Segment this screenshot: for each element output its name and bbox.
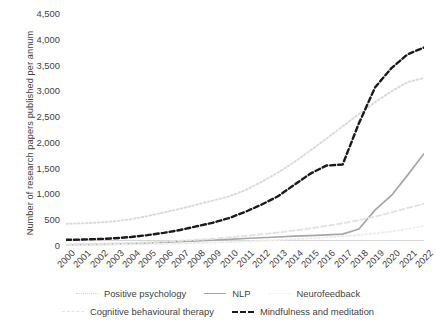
legend-label: Mindfulness and meditation — [260, 306, 374, 317]
y-axis-tick: 4,000 — [14, 35, 60, 44]
legend-label: Positive psychology — [104, 288, 186, 299]
series-line — [66, 154, 424, 245]
series-line — [66, 48, 424, 240]
y-axis-tick: 1,500 — [14, 164, 60, 173]
legend-swatch-icon — [62, 311, 84, 312]
y-axis-tick: 0 — [14, 241, 60, 250]
legend-label: Cognitive behavioural therapy — [90, 306, 214, 317]
legend-row-2: Cognitive behavioural therapyMindfulness… — [0, 306, 436, 317]
legend-swatch-icon — [76, 293, 98, 294]
y-axis-tick: 4,500 — [14, 9, 60, 18]
y-axis-tick: 2,000 — [14, 138, 60, 147]
legend-item[interactable]: Neurofeedback — [269, 288, 361, 299]
legend-label: Neurofeedback — [297, 288, 361, 299]
legend-swatch-icon — [232, 311, 254, 313]
y-axis-tick-labels: 05001,0001,5002,0002,5003,0003,5004,0004… — [14, 0, 60, 333]
x-axis-tick-labels: 2000200120022003200420052006200720082009… — [66, 240, 424, 286]
legend-item[interactable]: Positive psychology — [76, 288, 186, 299]
series-lines — [66, 14, 424, 246]
y-axis-tick: 3,000 — [14, 86, 60, 95]
plot-area — [66, 14, 424, 246]
legend-row-1: Positive psychologyNLPNeurofeedback — [0, 288, 436, 299]
y-axis-tick: 2,500 — [14, 112, 60, 121]
research-papers-line-chart: Number of research papers published per … — [0, 0, 436, 333]
legend-label: NLP — [232, 288, 250, 299]
legend-item[interactable]: Mindfulness and meditation — [232, 306, 374, 317]
y-axis-tick: 1,000 — [14, 189, 60, 198]
chart-legend: Positive psychologyNLPNeurofeedback Cogn… — [0, 288, 436, 330]
legend-swatch-icon — [204, 293, 226, 294]
legend-item[interactable]: Cognitive behavioural therapy — [62, 306, 214, 317]
y-axis-tick: 500 — [14, 215, 60, 224]
y-axis-tick: 3,500 — [14, 61, 60, 70]
legend-swatch-icon — [269, 293, 291, 294]
legend-item[interactable]: NLP — [204, 288, 250, 299]
